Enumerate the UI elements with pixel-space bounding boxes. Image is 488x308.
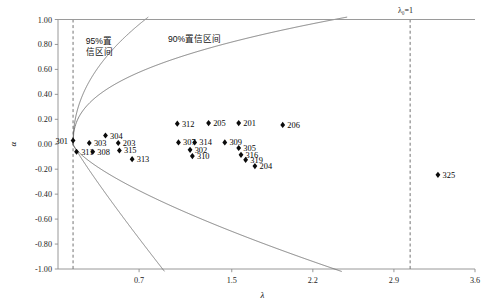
y-tick-label: 0.60 [38,65,52,74]
data-point: 206 [280,121,300,130]
y-tick-label: 0.00 [38,140,52,149]
point-marker [176,139,181,145]
data-point: 201 [236,119,256,128]
ci95-label-line: 信区间 [86,46,113,57]
y-tick-label: 0.20 [38,115,52,124]
axes-layer [55,20,475,273]
point-marker [236,120,241,126]
data-points-layer: 3013033042033113083153133123073143023102… [55,119,455,180]
data-point: 312 [175,120,195,129]
point-marker [117,147,122,153]
point-label: 315 [124,146,137,155]
ci90-label-line: 90%置信区间 [168,33,221,44]
annotations-layer: 95%置信区间90%置信区间λ₀=1 [86,6,413,57]
point-marker [206,120,211,126]
data-point: 311 [74,148,93,157]
point-label: 204 [260,162,273,171]
axis-labels-layer: 1.000.800.600.400.200.00-0.20-0.40-0.60-… [8,16,480,301]
point-marker [103,132,108,138]
data-point: 325 [436,171,456,180]
data-point: 301 [55,137,75,146]
y-tick-label: -0.80 [35,240,52,249]
ci90-lower [73,144,342,271]
y-tick-label: -0.40 [35,190,52,199]
point-label: 206 [287,121,300,130]
point-label: 308 [97,148,110,157]
y-tick-label: 0.80 [38,40,52,49]
scatter-plot: 3013033042033113083153133123073143023102… [0,0,488,308]
reference-lines-layer [58,20,475,270]
point-label: 304 [110,132,123,141]
y-tick-label: 0.40 [38,90,52,99]
x-tick-label: 1.5 [227,276,237,285]
y-tick-label: -1.00 [35,265,52,274]
x-tick-label: 2.9 [389,276,399,285]
x-tick-label: 0.7 [134,276,144,285]
data-point: 313 [130,155,150,164]
y-tick-label: -0.20 [35,165,52,174]
point-marker [222,139,227,145]
data-point: 315 [117,146,137,155]
point-label: 325 [443,171,456,180]
data-point: 205 [206,119,226,128]
point-label: 310 [197,152,210,161]
data-point: 303 [87,139,107,148]
x-tick-label: 3.6 [470,276,480,285]
x-axis-title: λ [260,290,265,300]
data-point: 310 [190,152,210,161]
chart-root: 3013033042033113083153133123073143023102… [0,0,488,308]
point-marker [116,140,121,146]
point-marker [130,156,135,162]
point-marker [175,121,180,127]
point-label: 309 [229,138,242,147]
point-marker [436,172,441,178]
point-label: 303 [94,139,107,148]
point-marker [87,140,92,146]
y-axis-title: α [8,142,18,147]
point-marker [188,147,193,153]
point-label: 205 [213,119,226,128]
ci90-label: 90%置信区间 [168,33,221,44]
ci95-label-line: 95%置 [86,36,112,46]
lambda0-label: λ₀=1 [398,6,413,15]
point-label: 301 [55,137,68,146]
lambda0-label-line: λ₀=1 [398,6,413,15]
y-tick-label: 1.00 [38,16,52,25]
point-label: 201 [243,119,256,128]
x-tick-label: 2.2 [308,276,318,285]
point-marker [71,137,76,143]
ci95-label: 95%置信区间 [86,36,113,57]
point-label: 313 [137,155,150,164]
y-tick-label: -0.60 [35,215,52,224]
point-marker [280,122,285,128]
point-label: 312 [182,120,195,129]
ci95-lower [73,144,164,271]
